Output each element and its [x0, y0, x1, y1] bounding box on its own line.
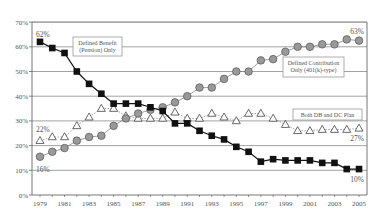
triangle-marker	[318, 125, 326, 132]
y-tick-label: 0%	[19, 192, 29, 200]
circle-marker	[245, 68, 253, 76]
triangle-marker	[171, 108, 179, 115]
x-tick-label: 1987	[131, 200, 146, 208]
legend-boxes: Defined Benefit(Pension) OnlyDefined Con…	[73, 37, 362, 120]
square-marker	[233, 144, 240, 151]
triangle-marker	[294, 127, 302, 134]
circle-marker	[85, 133, 93, 141]
legend-label: Defined Benefit	[78, 40, 117, 46]
square-marker	[159, 108, 166, 115]
y-tick-label: 50%	[15, 68, 28, 76]
triangle-marker	[73, 122, 81, 129]
x-axis: 1979198119831985198719891991199319951997…	[32, 195, 367, 208]
db-start-label: 62%	[36, 30, 50, 39]
square-marker	[282, 157, 289, 164]
triangle-marker	[355, 124, 363, 131]
legend-box-square: Defined Benefit(Pension) Only	[73, 37, 122, 56]
triangle-marker	[281, 120, 289, 127]
square-marker	[196, 127, 203, 134]
triangle-marker	[146, 114, 154, 121]
square-marker	[331, 160, 338, 167]
circle-marker	[331, 41, 339, 49]
circle-marker	[318, 41, 326, 49]
y-tick-label: 30%	[15, 117, 28, 125]
triangle-marker	[245, 109, 253, 116]
x-tick-label: 1983	[82, 200, 97, 208]
circle-marker	[183, 92, 191, 100]
square-marker	[258, 158, 265, 165]
db-end-label: 10%	[350, 175, 364, 184]
circle-marker	[36, 153, 44, 161]
triangle-marker	[36, 136, 44, 143]
square-marker	[37, 39, 44, 46]
circle-marker	[269, 55, 277, 63]
y-tick-label: 10%	[15, 167, 28, 175]
y-tick-label: 20%	[15, 142, 28, 150]
y-tick-label: 70%	[15, 19, 28, 27]
circle-marker	[282, 48, 290, 56]
circle-marker	[61, 144, 69, 152]
both-start-label: 22%	[36, 125, 50, 134]
triangle-marker	[85, 113, 93, 120]
x-tick-label: 1993	[205, 200, 220, 208]
circle-marker	[48, 148, 56, 156]
triangle-marker	[330, 125, 338, 132]
triangle-marker	[269, 114, 277, 121]
y-tick-label: 60%	[15, 43, 28, 51]
circle-marker	[355, 37, 363, 45]
square-marker	[294, 157, 301, 164]
circle-marker	[134, 110, 142, 118]
x-tick-label: 1979	[33, 200, 48, 208]
x-tick-label: 1991	[180, 200, 195, 208]
square-marker	[184, 120, 191, 127]
x-tick-label: 1999	[278, 200, 293, 208]
square-marker	[61, 50, 68, 57]
square-marker	[245, 148, 252, 155]
x-tick-label: 2005	[352, 200, 367, 208]
legend-label: Defined Contribution	[288, 60, 340, 66]
y-tick-label: 40%	[15, 93, 28, 101]
circle-marker	[196, 84, 204, 92]
square-marker	[343, 166, 350, 173]
circle-marker	[233, 68, 241, 76]
x-tick-label: 1989	[156, 200, 171, 208]
square-marker	[319, 160, 326, 167]
circle-marker	[294, 43, 302, 51]
square-marker	[123, 100, 130, 107]
triangle-marker	[61, 133, 69, 140]
square-marker	[49, 45, 56, 52]
square-marker	[147, 104, 154, 111]
square-marker	[172, 120, 179, 127]
circle-marker	[220, 75, 228, 83]
square-marker	[135, 100, 142, 107]
circle-marker	[171, 99, 179, 107]
triangle-marker	[208, 109, 216, 116]
x-tick-label: 1997	[254, 200, 269, 208]
both-end-label: 27%	[350, 134, 364, 143]
legend-label: Both DB and DC Plan	[301, 112, 355, 118]
square-marker	[221, 136, 228, 143]
square-marker	[270, 156, 277, 163]
triangle-marker	[306, 127, 314, 134]
x-tick-label: 1985	[107, 200, 122, 208]
pension-plan-trend-chart: 0%10%20%30%40%50%60%70% 1979198119831985…	[0, 0, 381, 215]
circle-marker	[306, 43, 314, 51]
square-marker	[98, 90, 105, 97]
legend-label: (Pension) Only	[79, 47, 116, 54]
triangle-marker	[196, 114, 204, 121]
circle-marker	[208, 84, 216, 92]
circle-marker	[98, 132, 106, 140]
legend-box-triangle-open: Both DB and DC Plan	[293, 109, 362, 120]
x-tick-label: 1995	[229, 200, 244, 208]
square-marker	[86, 81, 93, 88]
x-tick-label: 1981	[58, 200, 73, 208]
triangle-marker	[159, 114, 167, 121]
circle-marker	[110, 122, 118, 130]
circle-marker	[73, 137, 81, 145]
square-marker	[74, 68, 81, 75]
legend-box-circle: Defined ContributionOnly (401(k)-type)	[283, 57, 344, 77]
square-marker	[307, 157, 314, 164]
circle-marker	[122, 115, 130, 123]
dc-start-label: 16%	[36, 165, 50, 174]
triangle-marker	[97, 104, 105, 111]
